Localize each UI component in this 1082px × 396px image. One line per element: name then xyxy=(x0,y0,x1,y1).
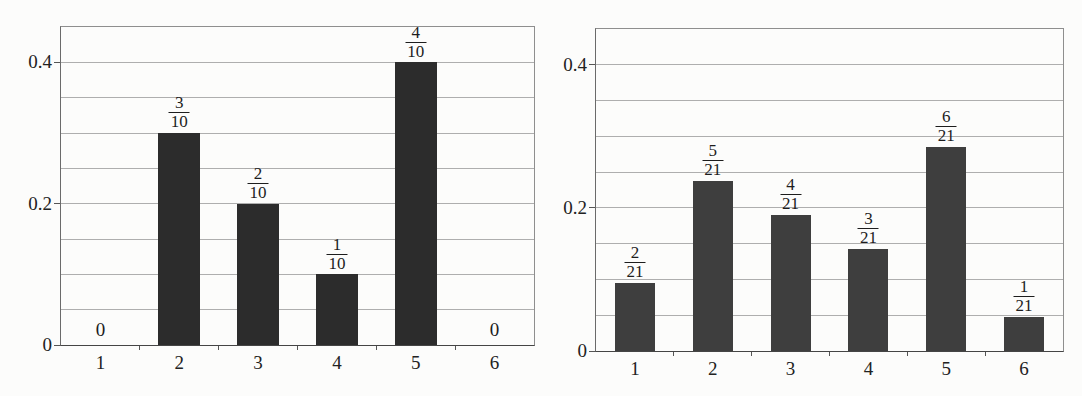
gridline xyxy=(61,97,534,98)
probability-bar xyxy=(771,215,811,351)
bar-value-fraction-label: 221 xyxy=(624,244,645,281)
bar-value-fraction-label: 110 xyxy=(326,236,347,273)
gridline xyxy=(596,172,1063,173)
x-axis-tick xyxy=(829,352,830,356)
fraction-numerator: 4 xyxy=(780,176,801,195)
y-tick-label: 0.2 xyxy=(527,196,587,220)
probability-bar xyxy=(926,147,966,351)
x-tick-label: 2 xyxy=(157,352,201,374)
left-bar-chart-plot-area: 00.20.401310221031104410506 xyxy=(60,26,535,346)
x-tick-label: 3 xyxy=(769,358,813,380)
fraction-denominator: 21 xyxy=(702,161,723,179)
x-tick-label: 1 xyxy=(78,352,122,374)
fraction-denominator: 21 xyxy=(780,195,801,213)
bar-zero-value-label: 0 xyxy=(96,320,106,340)
y-axis-tick xyxy=(54,203,60,204)
x-tick-label: 5 xyxy=(394,352,438,374)
bar-value-fraction-label: 121 xyxy=(1014,278,1035,315)
bar-zero-value-label: 0 xyxy=(490,320,500,340)
bar-value-fraction-label: 310 xyxy=(169,94,190,131)
gridline xyxy=(61,274,534,275)
gridline xyxy=(61,168,534,169)
bar-value-fraction-label: 521 xyxy=(702,142,723,179)
gridline xyxy=(61,309,534,310)
gridline xyxy=(61,203,534,204)
y-axis-tick xyxy=(54,62,60,63)
x-axis-tick xyxy=(985,352,986,356)
y-tick-label: 0 xyxy=(527,339,587,363)
probability-bar xyxy=(316,274,358,345)
fraction-denominator: 21 xyxy=(936,127,957,145)
x-axis-tick xyxy=(139,346,140,350)
fraction-numerator: 3 xyxy=(169,94,190,113)
probability-bar xyxy=(693,181,733,351)
dice-probability-figure: 00.20.401310221031104410506 00.20.422115… xyxy=(0,0,1082,396)
probability-bar xyxy=(158,133,200,345)
x-tick-label: 1 xyxy=(613,358,657,380)
gridline xyxy=(61,239,534,240)
probability-bar xyxy=(615,283,655,351)
fraction-numerator: 1 xyxy=(326,236,347,255)
probability-bar xyxy=(237,204,279,345)
x-axis-tick xyxy=(455,346,456,350)
x-tick-label: 6 xyxy=(473,352,517,374)
y-tick-label: 0.4 xyxy=(0,50,52,74)
x-axis-tick xyxy=(673,352,674,356)
y-tick-label: 0.2 xyxy=(0,192,52,216)
x-tick-label: 4 xyxy=(846,358,890,380)
bar-value-fraction-label: 421 xyxy=(780,176,801,213)
bar-value-fraction-label: 410 xyxy=(405,24,426,61)
fraction-numerator: 6 xyxy=(936,108,957,127)
x-tick-label: 4 xyxy=(315,352,359,374)
fraction-denominator: 10 xyxy=(405,43,426,61)
gridline xyxy=(596,315,1063,316)
right-bar-chart-plot-area: 00.20.4221152124213321462151216 xyxy=(595,28,1064,352)
probability-bar xyxy=(848,249,888,351)
fraction-numerator: 4 xyxy=(405,24,426,43)
x-axis-tick xyxy=(218,346,219,350)
fraction-numerator: 3 xyxy=(858,210,879,229)
gridline xyxy=(596,207,1063,208)
fraction-denominator: 21 xyxy=(1014,297,1035,315)
gridline xyxy=(596,279,1063,280)
y-axis-tick xyxy=(589,207,595,208)
gridline xyxy=(596,136,1063,137)
fraction-denominator: 10 xyxy=(326,255,347,273)
gridline xyxy=(596,64,1063,65)
y-tick-label: 0.4 xyxy=(527,53,587,77)
x-tick-label: 2 xyxy=(691,358,735,380)
fraction-numerator: 2 xyxy=(248,165,269,184)
fraction-numerator: 2 xyxy=(624,244,645,263)
x-tick-label: 6 xyxy=(1002,358,1046,380)
gridline xyxy=(596,243,1063,244)
bar-value-fraction-label: 210 xyxy=(248,165,269,202)
bar-value-fraction-label: 321 xyxy=(858,210,879,247)
probability-bar xyxy=(1004,317,1044,351)
y-axis-tick xyxy=(54,345,60,346)
x-axis-tick xyxy=(751,352,752,356)
fraction-denominator: 21 xyxy=(858,229,879,247)
x-axis-tick xyxy=(907,352,908,356)
x-axis-tick xyxy=(376,346,377,350)
fraction-numerator: 1 xyxy=(1014,278,1035,297)
fraction-denominator: 10 xyxy=(248,184,269,202)
gridline xyxy=(61,62,534,63)
gridline xyxy=(61,133,534,134)
bar-value-fraction-label: 621 xyxy=(936,108,957,145)
y-tick-label: 0 xyxy=(0,333,52,357)
probability-bar xyxy=(395,62,437,345)
x-tick-label: 5 xyxy=(924,358,968,380)
x-axis-tick xyxy=(297,346,298,350)
fraction-denominator: 21 xyxy=(624,263,645,281)
x-tick-label: 3 xyxy=(236,352,280,374)
gridline xyxy=(596,100,1063,101)
fraction-denominator: 10 xyxy=(169,113,190,131)
fraction-numerator: 5 xyxy=(702,142,723,161)
y-axis-tick xyxy=(589,64,595,65)
y-axis-tick xyxy=(589,351,595,352)
